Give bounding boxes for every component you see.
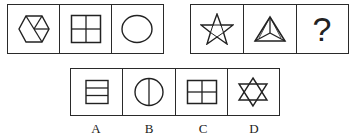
triangle-with-center-lines-icon — [253, 15, 287, 43]
circle-icon — [120, 14, 154, 44]
rectangle-three-stripes-icon — [84, 79, 110, 105]
hexagram-icon — [236, 76, 270, 108]
option-c-label: C — [193, 121, 213, 137]
row2-cell-2 — [244, 5, 297, 53]
option-c[interactable] — [176, 69, 228, 115]
circle-with-vertical-line-icon — [133, 77, 165, 107]
hexagon-with-three-diagonals-icon — [17, 14, 51, 44]
option-b-label: B — [139, 121, 159, 137]
option-a[interactable] — [71, 69, 123, 115]
row2-sequence: ? — [190, 4, 349, 54]
row2-cell-1 — [191, 5, 244, 53]
row1-cell-1 — [8, 5, 60, 53]
square-quartered-icon — [186, 79, 218, 105]
row1-cell-3 — [112, 5, 162, 53]
answer-options — [70, 68, 280, 116]
pentagram-icon — [200, 13, 234, 45]
option-d-label: D — [244, 121, 264, 137]
option-a-label: A — [86, 121, 106, 137]
row1-cell-2 — [60, 5, 112, 53]
row1-sequence — [7, 4, 164, 54]
question-mark: ? — [313, 12, 332, 46]
row2-cell-3-unknown: ? — [297, 5, 347, 53]
option-b[interactable] — [123, 69, 176, 115]
option-d[interactable] — [228, 69, 278, 115]
square-quartered-icon — [70, 14, 102, 44]
